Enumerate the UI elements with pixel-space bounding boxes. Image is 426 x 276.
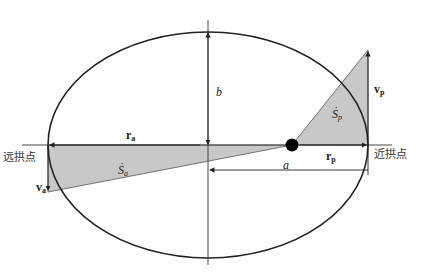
label-ra: ra <box>126 128 135 143</box>
label-perihelion: 近拱点 <box>374 147 407 161</box>
area-sweep-aphelion <box>48 145 292 192</box>
label-rp: rp <box>326 149 336 164</box>
orbit-svg: b a ra rp vp va Ṡp Ṡa 远拱点 近拱点 <box>0 0 426 276</box>
label-b: b <box>216 85 222 99</box>
label-vp: vp <box>374 82 385 97</box>
label-aphelion: 远拱点 <box>3 150 36 164</box>
orbit-diagram: b a ra rp vp va Ṡp Ṡa 远拱点 近拱点 <box>0 0 426 276</box>
area-sweep-perihelion <box>292 50 368 145</box>
focus-body <box>286 139 299 152</box>
label-va: va <box>36 180 46 195</box>
label-a: a <box>283 158 289 172</box>
